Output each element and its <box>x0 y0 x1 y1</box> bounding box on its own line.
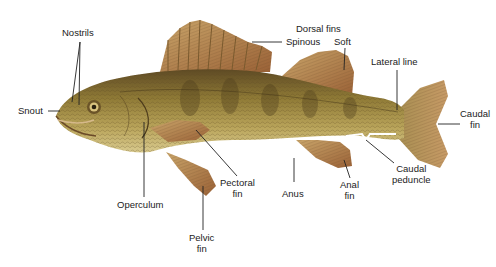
eye-icon <box>87 100 101 114</box>
label-snout: Snout <box>18 105 43 116</box>
fish-illustration <box>0 0 496 267</box>
label-anal-fin-line2: fin <box>340 190 359 201</box>
label-caudal-peduncle-line1: Caudal <box>392 163 431 174</box>
label-pelvic-fin-line1: Pelvic <box>189 232 214 243</box>
pelvic-fin <box>166 152 216 196</box>
label-anus: Anus <box>282 188 304 199</box>
label-lateral-line: Lateral line <box>371 56 417 67</box>
label-soft: Soft <box>334 36 351 47</box>
label-caudal-fin: Caudal fin <box>460 108 490 130</box>
label-caudal-peduncle: Caudal peduncle <box>392 163 431 185</box>
label-anal-fin-line1: Anal <box>340 179 359 190</box>
label-dorsal-fins: Dorsal fins <box>296 23 341 34</box>
label-spinous: Spinous <box>286 36 320 47</box>
anal-fin <box>296 140 352 168</box>
spinous-dorsal-fin <box>160 20 272 72</box>
label-operculum: Operculum <box>117 199 163 210</box>
label-pectoral-fin-line2: fin <box>220 188 255 199</box>
label-pectoral-fin-line1: Pectoral <box>220 177 255 188</box>
label-caudal-fin-line1: Caudal <box>460 108 490 119</box>
label-caudal-peduncle-line2: peduncle <box>392 174 431 185</box>
label-nostrils: Nostrils <box>62 27 94 38</box>
label-anal-fin: Anal fin <box>340 179 359 201</box>
label-pelvic-fin: Pelvic fin <box>189 232 214 254</box>
label-caudal-fin-line2: fin <box>460 119 490 130</box>
label-pelvic-fin-line2: fin <box>189 243 214 254</box>
label-pectoral-fin: Pectoral fin <box>220 177 255 199</box>
